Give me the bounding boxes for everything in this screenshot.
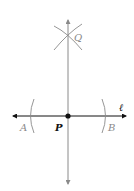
label-line-l: ℓ	[119, 102, 123, 113]
perpendicular-construction-diagram: Q ℓ A P B	[0, 0, 134, 191]
label-q: Q	[74, 32, 82, 43]
label-b: B	[107, 122, 115, 133]
label-a: A	[19, 122, 27, 133]
point-p	[65, 113, 70, 118]
label-p: P	[54, 122, 63, 133]
